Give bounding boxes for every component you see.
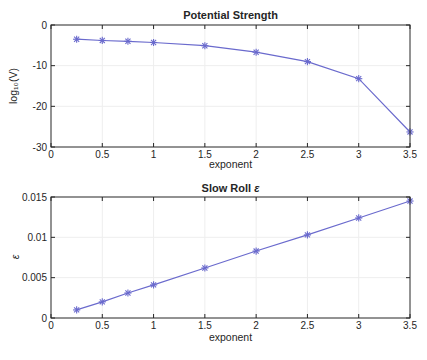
y-tick-label: -10 <box>33 60 48 71</box>
data-marker <box>304 58 311 65</box>
data-marker <box>99 298 106 305</box>
plot-canvas: 00.511.522.533.50-10-20-3000.511.522.533… <box>0 0 427 360</box>
x-tick-label: 2 <box>253 320 259 331</box>
bottom-plot-title-text: Slow Roll <box>202 182 255 194</box>
data-marker <box>253 247 260 254</box>
axis-box <box>51 25 410 147</box>
x-tick-label: 1.5 <box>198 320 212 331</box>
data-marker <box>253 49 260 56</box>
data-marker <box>99 37 106 44</box>
data-marker <box>201 264 208 271</box>
y-tick-label: -30 <box>33 142 48 153</box>
data-marker <box>355 214 362 221</box>
top-plot-title: Potential Strength <box>51 9 410 21</box>
y-tick-label: -20 <box>33 101 48 112</box>
y-tick-label: 0.01 <box>28 232 48 243</box>
subplot-2: 00.511.522.533.500.0050.010.015 <box>22 192 417 332</box>
bottom-plot-title-symbol: ε <box>254 182 259 194</box>
data-marker <box>73 306 80 313</box>
top-plot-title-text: Potential Strength <box>183 9 278 21</box>
bottom-plot-xlabel: exponent <box>51 331 410 343</box>
y-tick-label: 0.015 <box>22 192 47 203</box>
top-plot-xlabel: exponent <box>51 158 410 170</box>
x-tick-label: 0.5 <box>95 320 109 331</box>
y-tick-label: 0.005 <box>22 272 47 283</box>
y-tick-label: 0 <box>41 20 47 31</box>
data-marker <box>124 289 131 296</box>
subplot-1: 00.511.522.533.50-10-20-30 <box>33 20 418 161</box>
data-marker <box>73 36 80 43</box>
data-marker <box>355 75 362 82</box>
x-tick-label: 2.5 <box>300 320 314 331</box>
data-marker <box>304 231 311 238</box>
data-marker <box>150 39 157 46</box>
data-marker <box>150 281 157 288</box>
matlab-figure: 00.511.522.533.50-10-20-3000.511.522.533… <box>0 0 427 360</box>
data-marker <box>124 38 131 45</box>
x-tick-label: 3.5 <box>403 320 417 331</box>
bottom-plot-title: Slow Roll ε <box>51 182 410 194</box>
x-tick-label: 1 <box>151 320 157 331</box>
y-tick-label: 0 <box>41 313 47 324</box>
top-plot-ylabel: log₁₀(V) <box>7 68 19 104</box>
data-marker <box>201 42 208 49</box>
bottom-plot-ylabel: ε <box>9 255 21 260</box>
x-tick-label: 0 <box>48 320 54 331</box>
series-line <box>77 39 410 132</box>
x-tick-label: 3 <box>356 320 362 331</box>
